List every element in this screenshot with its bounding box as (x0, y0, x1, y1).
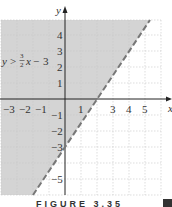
y-tick-label: 2 (57, 61, 63, 73)
svg-text:3: 3 (20, 52, 24, 60)
y-tick-label: 4 (57, 29, 63, 41)
x-axis-arrow-icon (166, 97, 172, 102)
x-tick-label: −3 (3, 103, 15, 115)
x-tick-label: 5 (142, 103, 148, 115)
y-axis-label: y (55, 4, 61, 16)
x-tick-label: 3 (110, 103, 116, 115)
y-tick-label: 3 (57, 45, 63, 57)
svg-text:x: x (25, 55, 31, 67)
end-marker (163, 199, 172, 207)
x-tick-label: −2 (19, 103, 31, 115)
x-axis-label: x (167, 102, 172, 114)
y-tick-label: −3 (51, 141, 63, 153)
svg-text:3: 3 (43, 55, 49, 67)
svg-text:−: − (33, 55, 39, 67)
y-tick-label: −2 (51, 125, 63, 137)
svg-text:>: > (10, 55, 16, 67)
svg-text:y: y (1, 55, 7, 67)
x-tick-label: −1 (35, 103, 47, 115)
x-tick-label: 1 (78, 103, 84, 115)
inequality-graph: y x −3 −2 −1 1 3 4 5 4 3 2 1 −1 −2 −3 −5… (0, 0, 172, 207)
y-tick-label: 1 (57, 77, 63, 89)
x-tick-label: 4 (126, 103, 132, 115)
y-axis-arrow-icon (63, 6, 68, 13)
figure-caption: FIGURE 3.35 (36, 199, 123, 207)
svg-text:2: 2 (20, 61, 24, 69)
y-tick-label: −5 (51, 173, 63, 185)
y-tick-label: −1 (51, 109, 63, 121)
